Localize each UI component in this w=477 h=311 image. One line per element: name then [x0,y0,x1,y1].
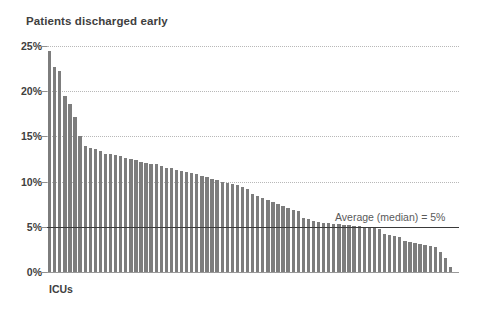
bar [388,235,391,272]
bar [271,202,274,272]
bar [124,158,127,272]
y-tick-label: 10% [4,176,42,188]
bar [109,154,112,272]
bar [342,225,345,272]
y-tick-label: 15% [4,130,42,142]
y-axis: 25%20%15%10%5%0% [0,46,42,272]
bar [155,164,158,272]
y-tick-label: 25% [4,40,42,52]
bar [403,241,406,272]
y-tick-label: 20% [4,85,42,97]
bar [292,210,295,272]
bar [352,226,355,272]
bar [48,51,51,272]
bar [251,194,254,272]
bar [317,222,320,272]
bar [165,168,168,272]
bar [281,206,284,272]
bar [231,184,234,272]
bar [149,164,152,272]
bar [276,204,279,272]
bar [256,196,259,272]
bar [129,159,132,272]
bar [378,229,381,272]
bar [134,160,137,272]
bar [449,267,452,272]
bar [439,252,442,272]
bar [63,96,66,272]
bar [363,227,366,272]
bar [413,243,416,272]
bar [195,174,198,272]
y-tick-label: 5% [4,221,42,233]
average-median-line [47,227,459,228]
bar [312,221,315,272]
bar [297,211,300,272]
bar [73,117,76,272]
bar [408,242,411,272]
bar [434,247,437,272]
bar [170,168,173,272]
bar [210,179,213,272]
bar [368,227,371,272]
gridline-0pct [47,272,459,273]
bar [94,149,97,272]
bar [286,208,289,272]
y-tick-label: 0% [4,266,42,278]
bar [373,228,376,272]
bar [332,224,335,272]
bar [175,170,178,272]
bar [200,176,203,272]
bar [429,246,432,272]
bar [180,171,183,272]
bar [261,198,264,272]
plot-area [47,46,459,272]
bar [119,156,122,272]
x-axis-label: ICUs [49,283,73,295]
bar [78,136,81,272]
bar [84,146,87,272]
y-tick-mark [41,272,47,273]
bar [99,151,102,272]
bar [144,163,147,272]
bar [423,245,426,272]
average-median-label: Average (median) = 5% [335,211,445,223]
chart-figure: Patients discharged early 25%20%15%10%5%… [0,0,477,311]
bar [444,258,447,272]
bar [104,154,107,272]
bar [393,236,396,272]
bar [68,104,71,272]
bar [398,237,401,272]
bar [347,225,350,272]
bar [53,67,56,272]
bar [322,223,325,272]
bar [236,185,239,272]
bar [246,189,249,272]
bar [190,173,193,272]
bar [327,223,330,272]
bar [139,162,142,272]
bar [241,187,244,272]
bar [114,155,117,272]
bar [418,244,421,272]
bar [205,177,208,272]
bar [337,224,340,272]
bar [383,234,386,272]
bar [58,71,61,272]
chart-title: Patients discharged early [26,15,168,27]
bar [89,148,92,272]
bar [266,200,269,272]
bar-series [47,46,459,272]
bar [160,166,163,272]
bar [358,226,361,272]
bar [185,172,188,272]
